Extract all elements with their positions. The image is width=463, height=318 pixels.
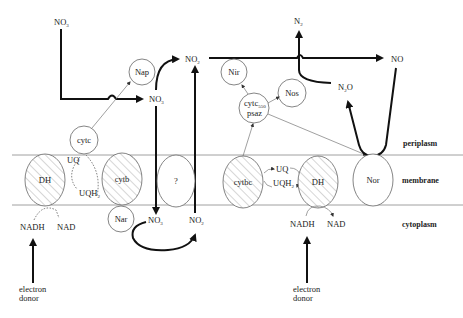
uqh2-left-label: UQH2 — [79, 188, 100, 199]
nitrate-transport-arrow — [61, 29, 142, 99]
n2o-label: N2O — [338, 82, 353, 93]
periplasm-label: periplasm — [403, 139, 438, 148]
nitrite-top-label: NO2 — [185, 54, 200, 65]
dh-right-label: DH — [312, 177, 324, 187]
n2-label: N2 — [294, 16, 303, 27]
cytoplasm-label: cytoplasm — [402, 220, 437, 229]
nitrate-top-label: NO3 — [54, 17, 69, 28]
uq-right-arrow — [264, 169, 274, 173]
nir-label: Nir — [228, 67, 240, 77]
no-label: NO — [391, 54, 403, 64]
membrane-label: membrane — [402, 176, 439, 185]
cytc-nor-electron-arrow — [268, 114, 366, 155]
no-to-n2o-arrow — [348, 68, 396, 156]
nos-label: Nos — [285, 88, 299, 98]
nadh-right-label: NADH — [290, 219, 315, 229]
cytb-label: cytb — [115, 174, 130, 184]
cytbc-cytc-electron-arrow — [243, 124, 253, 156]
electron-donor-right-line2: donor — [293, 293, 313, 303]
nad-left-label: NAD — [57, 222, 75, 232]
cytc-nap-electron-arrow — [92, 82, 130, 128]
uqh2-right-curve — [264, 181, 272, 187]
nar-reduction-arrow — [133, 222, 195, 250]
nar-label: Nar — [115, 214, 128, 224]
nor-label: Nor — [366, 175, 379, 185]
uqh2-right-label: UQH2 — [273, 178, 294, 189]
cytbc-label: cytbc — [234, 177, 253, 187]
nap-nitrite-arrow — [156, 59, 178, 90]
electron-donor-left-line2: donor — [19, 293, 39, 303]
uq-right-label: UQ — [276, 164, 288, 174]
cytc-nos-electron-arrow — [268, 97, 279, 103]
nadh-oxidation-left — [34, 208, 59, 220]
nitrate-mid-label: NO3 — [149, 94, 164, 105]
denitrification-diagram: periplasm membrane cytoplasm NO3 NO3 Nap… — [0, 0, 463, 318]
nitrite-to-no-arrow — [209, 55, 382, 58]
nadh-left-label: NADH — [20, 222, 45, 232]
nitrate-cyto-label: NO3 — [148, 215, 163, 226]
cytc-left-label: cytc — [77, 135, 91, 145]
nap-label: Nap — [135, 67, 149, 77]
unknown-label: ? — [174, 176, 178, 186]
nad-right-label: NAD — [327, 219, 345, 229]
nitrite-cyto-label: NO2 — [189, 215, 204, 226]
cytc-nir-electron-arrow — [242, 85, 248, 94]
uq-right-curve — [290, 168, 300, 175]
uq-left-label: UQ — [67, 155, 79, 165]
dh-left-label: DH — [39, 175, 51, 185]
psaz-label: psaz — [247, 108, 262, 118]
